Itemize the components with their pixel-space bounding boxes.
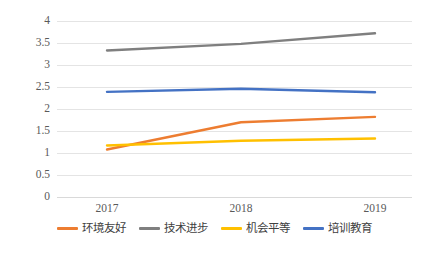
legend-swatch-icon: [221, 227, 242, 230]
legend-item[interactable]: 机会平等: [221, 222, 290, 235]
y-axis-tick-label: 3.5: [4, 37, 50, 49]
plot-area: [57, 21, 412, 197]
legend-item[interactable]: 技术进步: [139, 222, 208, 235]
gridline: [57, 197, 412, 198]
x-axis: 201720182019: [57, 201, 412, 217]
legend-item-label: 培训教育: [328, 222, 372, 235]
legend-item-label: 技术进步: [164, 222, 208, 235]
y-axis-tick-label: 2: [4, 103, 50, 115]
legend-swatch-icon: [139, 227, 160, 230]
legend-item-label: 环境友好: [82, 222, 126, 235]
y-axis-tick-label: 4: [4, 15, 50, 27]
x-axis-tick-label: 2019: [364, 201, 387, 215]
series-line: [107, 33, 375, 50]
y-axis-tick-label: 1: [4, 147, 50, 159]
y-axis-tick-label: 0.5: [4, 169, 50, 181]
legend-item[interactable]: 环境友好: [57, 222, 126, 235]
series-line: [107, 89, 375, 93]
y-axis-tick-label: 0: [4, 191, 50, 203]
legend-swatch-icon: [57, 227, 78, 230]
x-axis-tick-label: 2018: [230, 201, 253, 215]
y-axis-tick-label: 2.5: [4, 81, 50, 93]
x-axis-tick-label: 2017: [96, 201, 119, 215]
legend-item[interactable]: 培训教育: [303, 222, 372, 235]
line-chart: 43.532.521.510.50 201720182019 环境友好技术进步机…: [0, 0, 428, 255]
legend-item-label: 机会平等: [246, 222, 290, 235]
y-axis: 43.532.521.510.50: [0, 21, 50, 197]
series-layer: [57, 21, 412, 197]
y-axis-tick-label: 3: [4, 59, 50, 71]
y-axis-tick-label: 1.5: [4, 125, 50, 137]
chart-legend: 环境友好技术进步机会平等培训教育: [0, 222, 428, 235]
legend-swatch-icon: [303, 227, 324, 230]
